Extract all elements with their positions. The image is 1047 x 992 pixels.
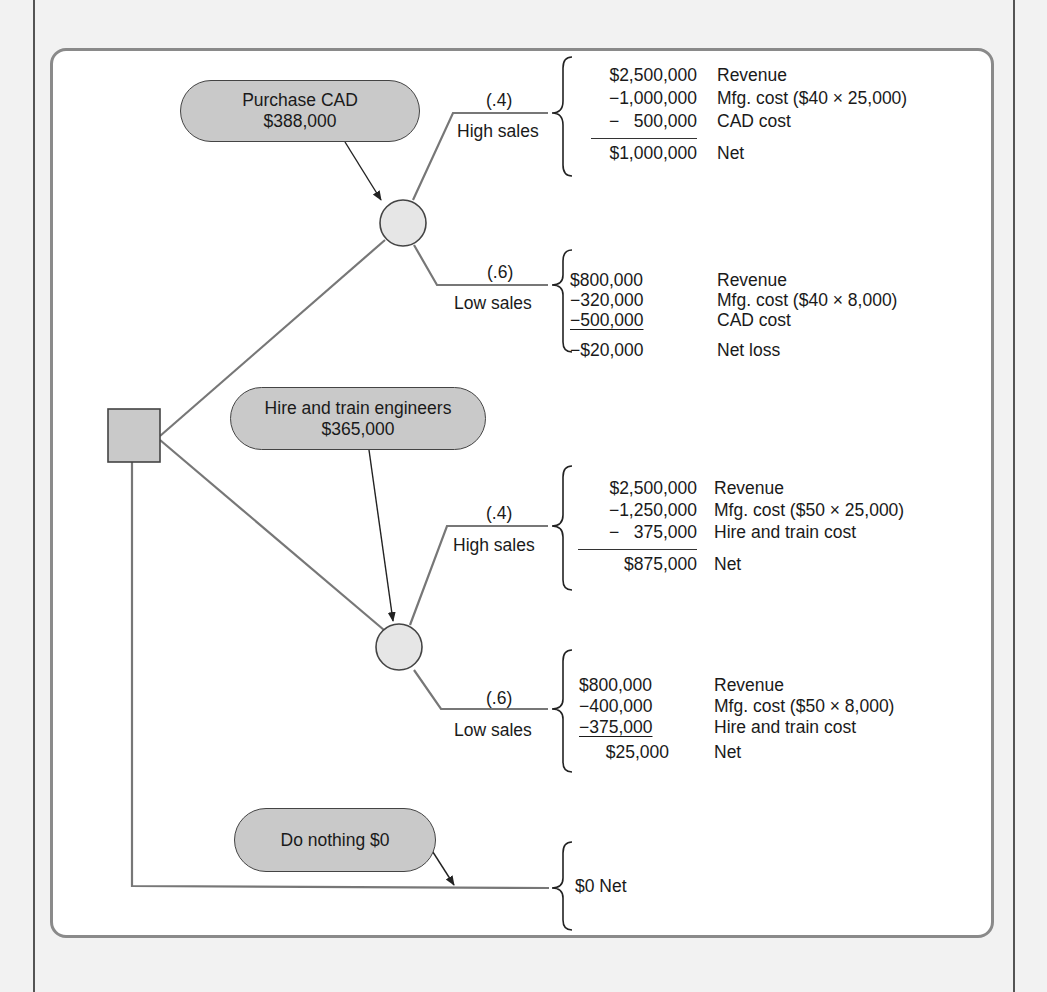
cad-low-desc-3: Net loss	[717, 340, 780, 361]
hire-low-desc-1: Mfg. cost ($50 × 8,000)	[714, 696, 894, 717]
hire-low-desc-3: Net	[714, 742, 741, 763]
cad-high-amount-1: −1,000,000	[575, 88, 697, 109]
purchase-cad-label: Purchase CAD $388,000	[180, 80, 420, 142]
decision-node-square	[108, 409, 160, 462]
cad-high-desc-0: Revenue	[717, 65, 787, 86]
purchase-cad-value: $388,000	[264, 111, 337, 132]
hire-train-value: $365,000	[322, 419, 395, 440]
hire-high-amount-0: $2,500,000	[575, 478, 697, 499]
do-nothing-result: $0 Net	[575, 876, 627, 897]
cad-low-amount-2: −500,000	[570, 310, 643, 331]
cad-high-amount-0: $2,500,000	[575, 65, 697, 86]
hire-low-prob: (.6)	[486, 688, 512, 708]
do-nothing-label: Do nothing $0	[234, 808, 436, 872]
hire-train-label: Hire and train engineers $365,000	[230, 387, 486, 450]
cad-low-prob: (.6)	[487, 262, 513, 282]
cad-low-amount-1: −320,000	[570, 290, 643, 311]
hire-high-amount-3: $875,000	[575, 554, 697, 575]
cad-high-desc-2: CAD cost	[717, 111, 791, 132]
cad-low-amount-3: −$20,000	[570, 340, 643, 361]
cad-high-amount-2: − 500,000	[575, 111, 697, 132]
cad-high-desc-3: Net	[717, 143, 744, 164]
do-nothing-title: Do nothing $0	[281, 830, 390, 851]
hire-high-label: High sales	[453, 535, 535, 555]
chance-node-cad	[380, 200, 426, 246]
hire-low-amount-2: −375,000	[579, 717, 652, 738]
hire-high-amount-2: − 375,000	[575, 522, 697, 543]
cad-low-desc-0: Revenue	[717, 270, 787, 291]
hire-low-label: Low sales	[454, 720, 532, 740]
hire-low-desc-0: Revenue	[714, 675, 784, 696]
cad-high-sum-rule	[591, 138, 697, 139]
hire-low-amount-1: −400,000	[579, 696, 652, 717]
cad-high-label: High sales	[457, 121, 539, 141]
purchase-cad-title: Purchase CAD	[242, 90, 358, 111]
hire-high-desc-2: Hire and train cost	[714, 522, 856, 543]
hire-high-sum-rule	[578, 549, 697, 550]
hire-low-amount-0: $800,000	[579, 675, 652, 696]
hire-high-desc-1: Mfg. cost ($50 × 25,000)	[714, 500, 904, 521]
hire-high-prob: (.4)	[486, 503, 512, 523]
chance-node-hire	[376, 624, 422, 670]
hire-train-title: Hire and train engineers	[265, 398, 452, 419]
hire-high-desc-0: Revenue	[714, 478, 784, 499]
cad-high-desc-1: Mfg. cost ($40 × 25,000)	[717, 88, 907, 109]
cad-high-prob: (.4)	[486, 90, 512, 110]
decision-tree-lines	[0, 0, 1047, 992]
hire-high-desc-3: Net	[714, 554, 741, 575]
hire-high-amount-1: −1,250,000	[575, 500, 697, 521]
cad-low-label: Low sales	[454, 293, 532, 313]
cad-low-desc-1: Mfg. cost ($40 × 8,000)	[717, 290, 897, 311]
hire-low-amount-3: $25,000	[575, 742, 669, 763]
cad-high-amount-3: $1,000,000	[575, 143, 697, 164]
hire-low-desc-2: Hire and train cost	[714, 717, 856, 738]
cad-low-desc-2: CAD cost	[717, 310, 791, 331]
cad-low-amount-0: $800,000	[570, 270, 643, 291]
